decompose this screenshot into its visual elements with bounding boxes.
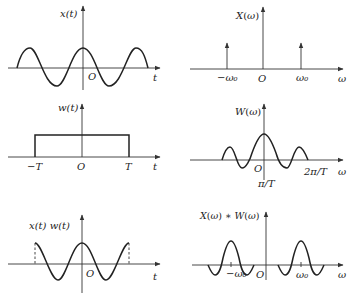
origin-label: O	[88, 71, 96, 82]
panel-convolved-spectrum: X(ω) ∗ W(ω) −ω₀ O ω₀ ω	[192, 210, 346, 280]
xlabel: t	[153, 271, 158, 282]
origin-label: O	[258, 73, 266, 84]
panel-time-signal: x(t) O t	[8, 6, 160, 90]
tick-pos-T: T	[125, 161, 133, 172]
panel-windowed-signal: x(t) w(t) O t	[8, 215, 160, 293]
ylabel: X(ω)	[235, 10, 259, 21]
panel-signal-spectrum: X(ω) −ω₀ O ω₀ ω	[190, 7, 346, 84]
ylabel: x(t) w(t)	[29, 220, 70, 231]
ylabel: W(ω)	[235, 106, 261, 117]
origin-label: O	[254, 163, 262, 174]
xlabel: ω	[338, 269, 346, 280]
ylabel: w(t)	[58, 102, 78, 113]
xlabel: ω	[338, 166, 346, 177]
sinc-curve	[222, 134, 308, 168]
tick-pos-omega0: ω₀	[296, 72, 308, 83]
xlabel: t	[153, 161, 158, 172]
panel-window-spectrum: W(ω) O π/T 2π/T ω	[190, 104, 346, 189]
ylabel: X(ω) ∗ W(ω)	[199, 210, 259, 221]
xlabel: ω	[338, 73, 346, 84]
signal-windowing-diagram: x(t) O t X(ω) −ω₀ O ω₀ ω w(t) −T O T t W…	[0, 0, 353, 304]
tick-neg-omega0: −ω₀	[226, 268, 247, 279]
origin-label: O	[86, 268, 94, 279]
tick-2pi-over-T: 2π/T	[303, 166, 328, 177]
origin-label: O	[77, 161, 85, 172]
tick-neg-omega0: −ω₀	[217, 72, 238, 83]
tick-neg-T: −T	[27, 161, 43, 172]
cosine-curve	[17, 48, 148, 86]
tick-pos-omega0: ω₀	[296, 269, 308, 280]
origin-label: O	[256, 269, 264, 280]
tick-pi-over-T: π/T	[257, 178, 276, 189]
ylabel: x(t)	[60, 8, 78, 19]
panel-window-time: w(t) −T O T t	[8, 102, 160, 172]
xlabel: t	[153, 72, 158, 83]
